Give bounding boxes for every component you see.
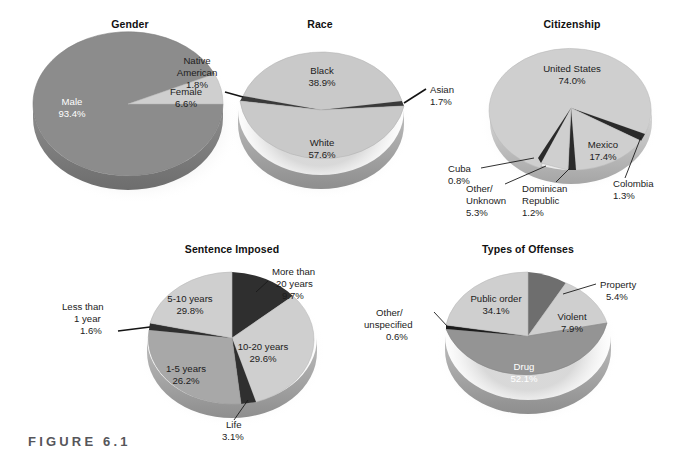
offenses-label-violent-value: 7.9% (561, 323, 583, 334)
citizenship-callout-dr-line2: Republic (522, 195, 560, 206)
offenses-callout-property-value: 5.4% (606, 291, 628, 302)
offenses-label-drug-value: 52.1% (510, 373, 538, 384)
citizenship-callout-cuba-name: Cuba (448, 163, 472, 174)
race-label-white-name: White (310, 137, 335, 148)
race-callout-native-american-line1: Native (183, 55, 210, 66)
sentence-callout-more20-line1: More than (272, 266, 315, 277)
citizenship-callout-dr-value: 1.2% (522, 207, 544, 218)
sentence-label-1-5-value: 26.2% (172, 375, 200, 386)
gender-label-female-value: 6.6% (175, 98, 197, 109)
race-label-white-value: 57.6% (308, 149, 336, 160)
offenses-callout-other-line2: unspecified (364, 319, 413, 330)
sentence-callout-life-value: 3.1% (222, 431, 244, 442)
chart-title-gender: Gender (111, 18, 148, 30)
citizenship-label-mexico-name: Mexico (588, 139, 618, 150)
race-callout-asian-name: Asian (430, 84, 454, 95)
pie-charts-svg: Gender Male 93.4% Female 6.6% Race Black… (0, 0, 684, 465)
citizenship-callout-dr-line1: Dominican (522, 183, 567, 194)
offenses-label-public-order-value: 34.1% (482, 305, 510, 316)
chart-title-types-of-offenses: Types of Offenses (482, 243, 574, 255)
sentence-label-1-5-name: 1-5 years (166, 363, 206, 374)
sentence-callout-life-name: Life (226, 419, 241, 430)
chart-types-of-offenses: Types of Offenses Public order 34.1% Vio… (364, 243, 636, 424)
offenses-label-violent-name: Violent (557, 311, 586, 322)
sentence-label-5-10-name: 5-10 years (167, 293, 213, 304)
race-callout-native-american-line2: American (177, 67, 218, 78)
citizenship-label-us-value: 74.0% (558, 75, 586, 86)
sentence-callout-more20-value: 9.7% (282, 290, 304, 301)
chart-citizenship: Citizenship United States 74.0% Mexico 1… (448, 18, 660, 218)
race-callout-asian-value: 1.7% (430, 96, 452, 107)
offenses-label-drug-name: Drug (514, 361, 535, 372)
sentence-callout-less1-line1: Less than (62, 301, 104, 312)
race-label-black-value: 38.9% (308, 77, 336, 88)
offenses-callout-property-name: Property (600, 279, 636, 290)
chart-title-sentence-imposed: Sentence Imposed (185, 243, 279, 255)
race-label-black-name: Black (310, 65, 334, 76)
gender-label-male-name: Male (62, 96, 83, 107)
chart-title-race: Race (307, 18, 333, 30)
offenses-callout-other-value: 0.6% (386, 331, 408, 342)
sentence-label-10-20-value: 29.6% (249, 353, 277, 364)
citizenship-label-us-name: United States (543, 63, 601, 74)
figure-caption: FIGURE 6.1 (28, 434, 131, 449)
gender-label-male-value: 93.4% (58, 108, 86, 119)
citizenship-callout-colombia-value: 1.3% (613, 190, 635, 201)
sentence-label-5-10-value: 29.8% (176, 305, 204, 316)
figure-container: Gender Male 93.4% Female 6.6% Race Black… (0, 0, 684, 465)
chart-sentence-imposed: Sentence Imposed 5-10 years 29.8% 10-20 … (62, 243, 326, 442)
citizenship-label-mexico-value: 17.4% (589, 151, 617, 162)
citizenship-callout-other-line2: Unknown (466, 195, 506, 206)
race-leader-asian (404, 89, 426, 103)
citizenship-callout-other-line1: Other/ (466, 183, 493, 194)
offenses-callout-other-line1: Other/ (376, 307, 403, 318)
chart-title-citizenship: Citizenship (543, 18, 600, 30)
sentence-callout-more20-line2: 20 years (276, 278, 313, 289)
sentence-label-10-20-name: 10-20 years (238, 341, 289, 352)
sentence-callout-less1-line2: 1 year (74, 313, 101, 324)
race-callout-native-american-value: 1.8% (186, 79, 208, 90)
citizenship-callout-colombia-name: Colombia (613, 178, 654, 189)
offenses-label-public-order-name: Public order (470, 293, 522, 304)
chart-gender: Gender Male 93.4% Female 6.6% (32, 18, 240, 204)
sentence-callout-less1-value: 1.6% (80, 325, 102, 336)
citizenship-callout-other-value: 5.3% (466, 207, 488, 218)
